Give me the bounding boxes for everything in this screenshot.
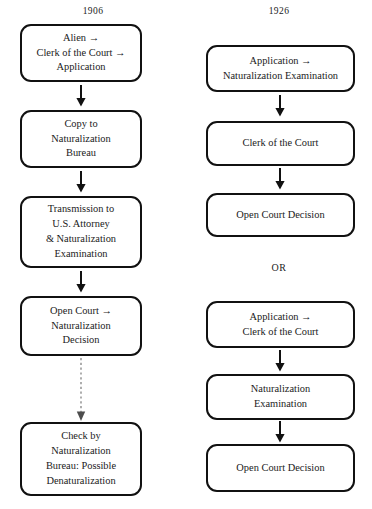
down-arrow-icon <box>74 85 88 107</box>
node-check-by-bureau-denaturalization: Check by Naturalization Bureau: Possible… <box>20 422 142 496</box>
node-clerk-of-the-court-upper: Clerk of the Court <box>206 121 355 166</box>
node-line: Naturalization <box>27 444 135 459</box>
node-line: Naturalization Examination <box>213 69 348 84</box>
node-line: U.S. Attorney <box>27 217 135 232</box>
column-year-label-1906: 1906 <box>0 6 186 16</box>
node-line: Clerk of the Court → <box>27 46 135 61</box>
node-line: Alien → <box>27 31 135 46</box>
node-line: Clerk of the Court <box>213 136 348 151</box>
node-line: Copy to <box>27 117 135 132</box>
node-open-court-decision-upper: Open Court Decision <box>206 193 355 237</box>
node-line: Check by <box>27 429 135 444</box>
node-naturalization-examination-lower: Naturalization Examination <box>206 374 355 420</box>
or-divider-label: OR <box>186 262 372 273</box>
node-line: Bureau <box>27 146 135 161</box>
node-line: & Naturalization <box>27 232 135 247</box>
node-line: Open Court Decision <box>213 461 348 476</box>
node-line: Application → <box>213 310 348 325</box>
node-line: Application → <box>213 54 348 69</box>
node-line: Naturalization <box>213 382 348 397</box>
node-open-court-decision-lower: Open Court Decision <box>206 444 355 492</box>
node-line: Open Court → <box>27 304 135 319</box>
node-alien-clerk-application: Alien → Clerk of the Court → Application <box>20 24 142 82</box>
down-arrow-icon <box>74 171 88 193</box>
node-line: Transmission to <box>27 202 135 217</box>
node-line: Clerk of the Court <box>213 325 348 340</box>
node-application-clerk-of-the-court: Application → Clerk of the Court <box>206 301 355 348</box>
down-arrow-icon <box>74 271 88 293</box>
dotted-down-arrow-icon <box>74 358 88 422</box>
node-line: Open Court Decision <box>213 208 348 223</box>
down-arrow-icon <box>273 350 287 372</box>
node-line: Application <box>27 60 135 75</box>
node-line: Decision <box>27 333 135 348</box>
node-application-naturalization-examination: Application → Naturalization Examination <box>206 45 355 92</box>
node-line: Bureau: Possible <box>27 459 135 474</box>
down-arrow-icon <box>273 421 287 443</box>
down-arrow-icon <box>273 168 287 190</box>
down-arrow-icon <box>273 95 287 117</box>
node-open-court-naturalization-decision: Open Court → Naturalization Decision <box>20 296 142 356</box>
flowchart-canvas: 1906 Alien → Clerk of the Court → Applic… <box>0 0 372 509</box>
node-line: Naturalization <box>27 132 135 147</box>
column-year-label-1926: 1926 <box>186 6 372 16</box>
node-copy-to-naturalization-bureau: Copy to Naturalization Bureau <box>20 110 142 168</box>
node-line: Examination <box>27 247 135 262</box>
node-line: Denaturalization <box>27 474 135 489</box>
node-line: Naturalization <box>27 319 135 334</box>
node-transmission-us-attorney-examination: Transmission to U.S. Attorney & Naturali… <box>20 196 142 268</box>
node-line: Examination <box>213 397 348 412</box>
